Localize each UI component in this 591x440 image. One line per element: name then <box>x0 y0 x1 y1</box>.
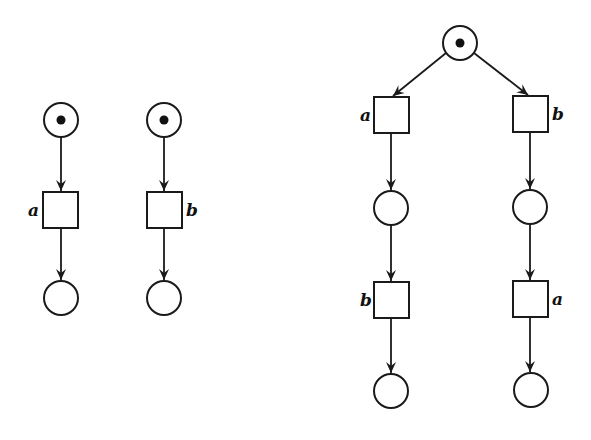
place <box>374 191 408 225</box>
net-right-tree: a b b a <box>360 26 564 408</box>
place-final <box>374 374 408 408</box>
petri-net-diagram: a b a b b a <box>0 0 591 440</box>
net-left-b: b <box>147 103 198 315</box>
place-final <box>147 281 181 315</box>
transition-a <box>513 281 548 317</box>
arc <box>393 53 446 96</box>
transition-a <box>374 97 409 133</box>
transition-label: b <box>360 290 372 310</box>
transition-b <box>374 282 409 318</box>
token <box>160 116 169 125</box>
transition-label: b <box>186 200 198 220</box>
place-final <box>514 373 548 407</box>
place <box>513 190 547 224</box>
transition-b <box>147 192 182 228</box>
transition-label: b <box>552 104 564 124</box>
place-final <box>44 281 78 315</box>
transition-b <box>513 96 548 132</box>
token <box>57 116 66 125</box>
transition-label: a <box>28 200 39 220</box>
arc <box>474 53 528 95</box>
transition-label: a <box>360 105 371 125</box>
net-left-a: a <box>28 103 78 315</box>
transition-a <box>43 192 78 228</box>
token <box>456 39 465 48</box>
transition-label: a <box>552 289 563 309</box>
